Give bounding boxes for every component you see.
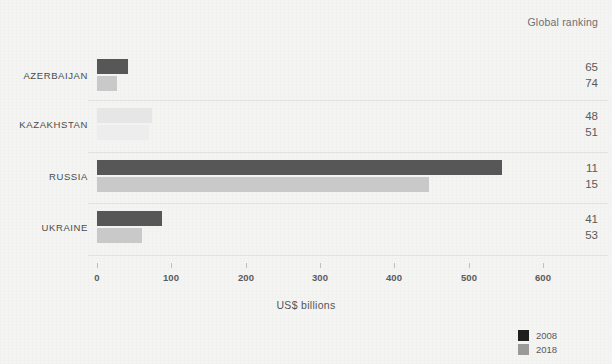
row-separator <box>88 255 608 256</box>
x-tick-label: 0 <box>77 272 117 283</box>
rank-2018-azerbaijan: 74 <box>558 77 598 89</box>
category-label-azerbaijan: AZERBAIJAN <box>0 70 88 81</box>
rank-2008-russia: 11 <box>558 162 598 174</box>
category-label-russia: RUSSIA <box>0 171 88 182</box>
chart-container: Global ranking AZERBAIJAN6574KAZAKHSTAN4… <box>0 0 612 364</box>
rank-2018-russia: 15 <box>558 178 598 190</box>
bar-2008-kazakhstan <box>97 108 152 123</box>
x-tick-mark <box>469 263 470 268</box>
chart-legend: 2008 2018 <box>518 328 598 356</box>
row-separator <box>88 203 608 204</box>
x-tick-mark <box>320 263 321 268</box>
x-tick-mark <box>543 263 544 268</box>
bar-2008-ukraine <box>97 211 162 226</box>
category-label-ukraine: UKRAINE <box>0 222 88 233</box>
bar-2018-kazakhstan <box>97 125 149 140</box>
bar-2018-azerbaijan <box>97 76 117 91</box>
bar-2008-azerbaijan <box>97 59 128 74</box>
x-tick-mark <box>394 263 395 268</box>
legend-label-2018: 2018 <box>536 344 557 355</box>
row-separator <box>88 100 608 101</box>
x-tick-label: 500 <box>449 272 489 283</box>
rank-2008-kazakhstan: 48 <box>558 110 598 122</box>
rank-2008-azerbaijan: 65 <box>558 61 598 73</box>
legend-swatch-2008 <box>518 330 529 341</box>
legend-swatch-2018 <box>518 344 529 355</box>
x-tick-mark <box>171 263 172 268</box>
legend-label-2008: 2008 <box>536 330 557 341</box>
x-tick-label: 400 <box>374 272 414 283</box>
x-tick-label: 100 <box>151 272 191 283</box>
bar-2008-russia <box>97 160 502 175</box>
row-separator <box>88 152 608 153</box>
x-tick-label: 200 <box>226 272 266 283</box>
rank-2008-ukraine: 41 <box>558 213 598 225</box>
legend-item-2018: 2018 <box>518 342 598 356</box>
bar-2018-russia <box>97 177 429 192</box>
x-axis-title: US$ billions <box>0 299 612 311</box>
x-tick-mark <box>246 263 247 268</box>
rank-2018-ukraine: 53 <box>558 229 598 241</box>
x-tick-mark <box>97 263 98 268</box>
x-tick-label: 300 <box>300 272 340 283</box>
rank-2018-kazakhstan: 51 <box>558 126 598 138</box>
x-tick-label: 600 <box>523 272 563 283</box>
category-label-kazakhstan: KAZAKHSTAN <box>0 119 88 130</box>
bar-2018-ukraine <box>97 228 142 243</box>
legend-item-2008: 2008 <box>518 328 598 342</box>
